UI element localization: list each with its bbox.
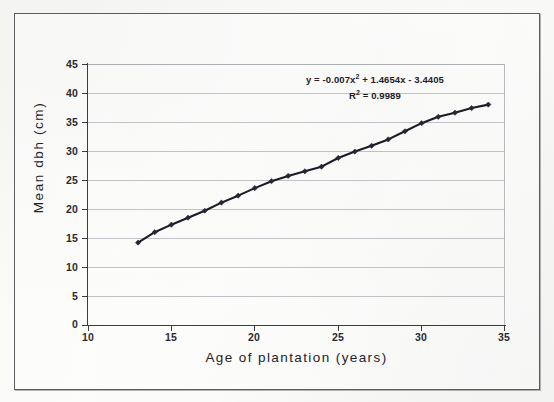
data-point [469, 105, 474, 110]
chart-data-layer [0, 0, 554, 402]
data-point [302, 169, 307, 174]
data-point [452, 110, 457, 115]
data-point-markers [135, 102, 490, 245]
data-point [286, 173, 291, 178]
trendline-path [138, 105, 488, 243]
data-point [486, 102, 491, 107]
figure-root: 45 40 35 30 25 20 15 10 5 0 10 15 20 25 … [0, 0, 554, 402]
